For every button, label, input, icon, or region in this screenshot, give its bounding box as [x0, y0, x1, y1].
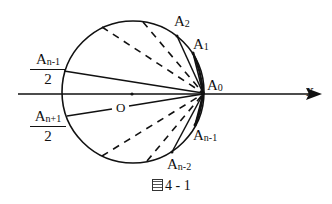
- chord-An-2: [172, 94, 203, 152]
- fraction-upper: An-1 2: [30, 52, 66, 87]
- fraction-upper-base: A: [36, 51, 47, 67]
- fraction-lower-base: A: [35, 108, 46, 124]
- chord-lower-half: [67, 109, 112, 116]
- label-A2-sub: 2: [185, 18, 190, 29]
- center-label-O: O: [116, 101, 125, 114]
- circle: [62, 21, 204, 163]
- caption-number: 4 - 1: [165, 178, 191, 193]
- point-A2: [176, 35, 179, 38]
- figure-glyph-icon: [152, 179, 163, 191]
- label-An-2-base: A: [167, 156, 178, 172]
- label-A0-base: A: [207, 77, 218, 93]
- axis-label-x: x: [306, 83, 314, 99]
- circle-diagram: [0, 0, 332, 204]
- fraction-upper-sub: n-1: [47, 56, 60, 67]
- fraction-lower-denominator: 2: [30, 127, 66, 144]
- fraction-lower-sub: n+1: [46, 113, 62, 124]
- label-A2-base: A: [174, 13, 185, 29]
- label-An-1: An-1: [193, 128, 217, 143]
- label-A2: A2: [174, 14, 190, 29]
- label-A0-sub: 0: [218, 82, 223, 93]
- point-A0: [201, 91, 205, 95]
- label-A1-base: A: [193, 36, 204, 52]
- label-An-1-base: A: [193, 127, 204, 143]
- point-An-2: [171, 151, 174, 154]
- fraction-lower-numerator: An+1: [30, 109, 66, 127]
- fraction-lower: An+1 2: [30, 109, 66, 144]
- label-A0: A0: [207, 78, 223, 93]
- chord-upper-half: [64, 71, 203, 93]
- label-A1: A1: [193, 37, 209, 52]
- arc-emphasis: [193, 53, 203, 125]
- label-An-2-sub: n-2: [178, 161, 191, 172]
- label-A1-sub: 1: [204, 41, 209, 52]
- center-point: [130, 92, 133, 95]
- label-An-2: An-2: [167, 157, 191, 172]
- figure-caption: 4 - 1: [152, 179, 191, 193]
- fraction-upper-numerator: An-1: [30, 52, 66, 70]
- fraction-upper-denominator: 2: [30, 70, 66, 87]
- label-An-1-sub: n-1: [204, 132, 217, 143]
